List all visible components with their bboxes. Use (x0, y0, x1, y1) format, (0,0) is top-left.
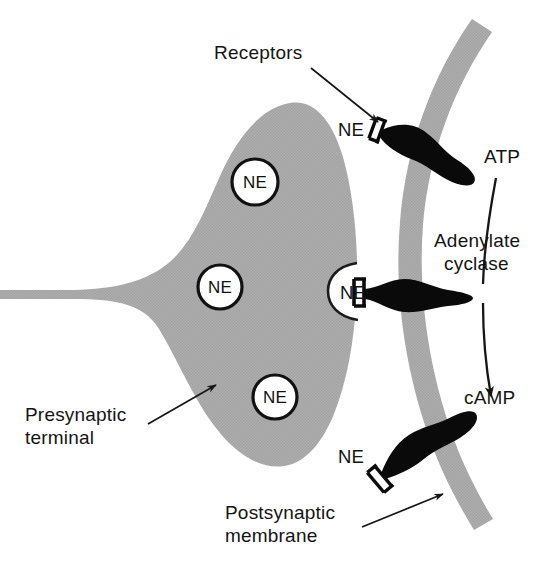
reaction-arrow-group (483, 178, 496, 396)
label-ne-cleft-middle: NE (340, 282, 366, 304)
vesicle-label: NE (243, 173, 267, 192)
label-adenylate-cyclase-line2: cyclase (444, 253, 509, 275)
receptor-middle (354, 278, 473, 312)
receptors-leader-line (311, 68, 378, 122)
vesicle-middle: NE (198, 265, 242, 309)
label-atp: ATP (484, 146, 520, 168)
postsynaptic-membrane-leader-line (362, 494, 443, 527)
label-ne-cleft-bottom: NE (338, 446, 364, 468)
vesicle-top: NE (232, 159, 278, 205)
vesicle-label: NE (208, 278, 232, 297)
adenylate-cyclase-blob (365, 279, 473, 312)
callout-label-presynaptic-terminal-line2: terminal (25, 427, 94, 449)
vesicle-label: NE (263, 388, 287, 407)
synapse-diagram-figure: NE NE NE (0, 0, 547, 569)
label-ne-cleft-top: NE (338, 119, 364, 141)
callout-label-postsynaptic-membrane-line2: membrane (225, 525, 317, 547)
reaction-arrow-lower-segment (483, 303, 491, 396)
label-adenylate-cyclase-line1: Adenylate (434, 230, 520, 252)
vesicle-bottom: NE (253, 375, 297, 419)
callout-label-postsynaptic-membrane-line1: Postsynaptic (225, 502, 335, 524)
callout-label-receptors: Receptors (214, 42, 302, 64)
label-camp: cAMP (464, 387, 515, 409)
callout-label-presynaptic-terminal-line1: Presynaptic (25, 404, 126, 426)
diagram-canvas: NE NE NE (0, 0, 547, 569)
